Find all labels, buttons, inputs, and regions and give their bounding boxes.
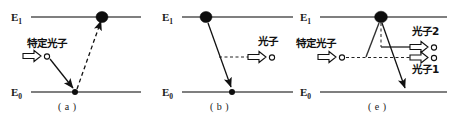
- panel-c-photon2-label: 光子2: [411, 25, 439, 37]
- panel-c-caption: ( e ): [368, 101, 387, 113]
- panel-b-emitted-photon-label: 光子: [257, 35, 279, 47]
- panel-a: E1 E0 特定光子 ( a ): [11, 11, 141, 113]
- figure-canvas: E1 E0 特定光子 ( a ) E1 E0: [0, 0, 455, 120]
- panel-a-photon-quantum-icon: [44, 54, 49, 59]
- panel-a-lower-level-label: E0: [11, 86, 22, 101]
- panel-c-incoming-photon-label: 特定光子: [296, 37, 337, 49]
- panel-a-photon-arrow-icon: [23, 51, 41, 62]
- panel-c-incoming-photon-quantum-icon: [339, 55, 344, 60]
- panel-c-upper-level-label: E1: [300, 11, 311, 26]
- panel-a-caption: ( a ): [58, 101, 77, 113]
- panel-b-upper-level-label: E1: [162, 11, 173, 26]
- panel-c-emission-arrow: [382, 23, 405, 88]
- panel-c-lower-level-label: E0: [300, 86, 311, 101]
- panel-b-photon-arrow-icon: [248, 52, 266, 63]
- panel-a-upper-level-electron: [96, 11, 108, 22]
- panel-a-lower-level-electron: [72, 89, 78, 95]
- panel-a-excitation-dashed-arrow: [77, 21, 101, 89]
- panel-c-upper-level-electron: [375, 11, 388, 23]
- panel-c-stimulation-line: [366, 23, 379, 57]
- panel-a-upper-level-label: E1: [11, 11, 22, 26]
- panel-b-photon-quantum-icon: [269, 55, 274, 60]
- panel-b-caption: ( b ): [210, 101, 229, 113]
- panel-c: E1 E0 特定光子 光子2: [296, 11, 447, 113]
- panel-b-lower-level-electron: [229, 89, 235, 95]
- panel-c-photon1-label: 光子1: [411, 63, 439, 75]
- panel-a-absorption-incoming-arrow: [50, 59, 73, 88]
- panel-b-upper-level-electron: [200, 11, 212, 22]
- panel-c-photon1-quantum-icon: [431, 55, 436, 60]
- panel-b-emission-arrow: [208, 23, 231, 87]
- panel-b-lower-level-label: E0: [162, 86, 173, 101]
- panel-c-incoming-photon-arrow-icon: [318, 52, 336, 63]
- panel-c-photon2-arrow-icon: [410, 42, 428, 53]
- panel-c-photon2-quantum-icon: [431, 45, 436, 50]
- panel-a-incoming-photon-label: 特定光子: [27, 37, 68, 49]
- panel-c-photon1-arrow-icon: [410, 52, 428, 63]
- panel-b: E1 E0 光子 ( b ): [162, 11, 293, 113]
- energy-level-figure: E1 E0 特定光子 ( a ) E1 E0: [0, 0, 455, 120]
